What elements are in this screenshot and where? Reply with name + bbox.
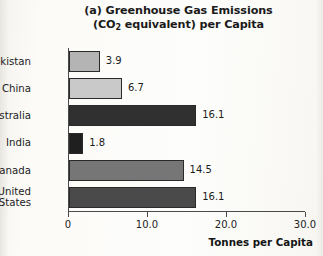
bar-2 xyxy=(69,105,196,126)
value-label-0: 3.9 xyxy=(106,55,122,66)
plot-area: Uzbekistan3.9China6.7Australia16.1India1… xyxy=(68,48,305,211)
x-tick-2 xyxy=(226,212,227,217)
bar-row: China6.7 xyxy=(68,78,305,99)
category-label-4: Canada xyxy=(0,165,31,177)
chart-title: (a) Greenhouse Gas Emissions (CO2 equiva… xyxy=(0,4,323,32)
category-label-1: China xyxy=(0,83,31,95)
bar-row: India1.8 xyxy=(68,133,305,154)
chart-title-line-2-post: equivalent) per Capita xyxy=(121,18,264,31)
chart-title-line-2: (CO2 equivalent) per Capita xyxy=(34,18,323,33)
value-label-4: 14.5 xyxy=(190,164,212,175)
bar-row: Canada14.5 xyxy=(68,160,305,181)
bar-row: United States16.1 xyxy=(68,187,305,208)
bar-5 xyxy=(69,187,196,208)
value-label-5: 16.1 xyxy=(202,191,224,202)
x-tick-0 xyxy=(68,212,69,217)
x-axis-label: Tonnes per Capita xyxy=(0,236,313,248)
bar-4 xyxy=(69,160,184,181)
value-label-2: 16.1 xyxy=(202,109,224,120)
x-tick-label-0: 0 xyxy=(65,219,71,230)
value-label-1: 6.7 xyxy=(128,82,144,93)
x-tick-label-3: 30.0 xyxy=(294,219,316,230)
category-label-0: Uzbekistan xyxy=(0,56,31,68)
bar-1 xyxy=(69,78,122,99)
bar-row: Australia16.1 xyxy=(68,105,305,126)
value-label-3: 1.8 xyxy=(89,137,105,148)
bar-series: Uzbekistan3.9China6.7Australia16.1India1… xyxy=(68,48,305,211)
chart-title-line-2-pre: (CO xyxy=(93,18,116,31)
category-label-3: India xyxy=(0,137,31,149)
x-tick-label-2: 20.0 xyxy=(215,219,237,230)
figure-panel: (a) Greenhouse Gas Emissions (CO2 equiva… xyxy=(0,0,323,256)
x-tick-label-1: 10.0 xyxy=(136,219,158,230)
chart-title-line-1: (a) Greenhouse Gas Emissions xyxy=(34,4,323,18)
bar-row: Uzbekistan3.9 xyxy=(68,51,305,72)
x-tick-3 xyxy=(305,212,306,217)
category-label-2: Australia xyxy=(0,110,31,122)
x-tick-1 xyxy=(147,212,148,217)
bar-0 xyxy=(69,51,100,72)
bar-3 xyxy=(69,133,83,154)
chart-title-subscript: 2 xyxy=(115,23,120,32)
x-axis-line xyxy=(68,211,305,212)
category-label-5: United States xyxy=(0,186,31,209)
